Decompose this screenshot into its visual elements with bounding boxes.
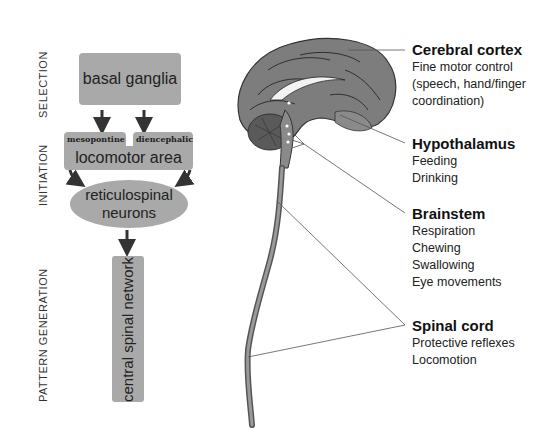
region-hypothalamus: Hypothalamus Feeding Drinking: [412, 135, 515, 187]
central-spinal-network-box: central spinal network: [112, 256, 144, 402]
leader-spinal-upper: [278, 202, 405, 325]
region-title: Hypothalamus: [412, 135, 515, 153]
arrow-locomotor-left: [70, 170, 78, 182]
region-brainstem: Brainstem Respiration Chewing Swallowing…: [412, 205, 502, 291]
mesopontine-label: mesopontine: [67, 134, 125, 144]
region-item: Protective reflexes: [412, 335, 515, 352]
region-item: Respiration: [412, 223, 502, 240]
locomotor-area-label: locomotor area: [75, 149, 182, 167]
region-item: Chewing: [412, 240, 502, 257]
region-item: Eye movements: [412, 274, 502, 291]
region-item: (speech, hand/finger: [412, 76, 526, 93]
arrow-locomotor-right: [182, 170, 190, 182]
reticulospinal-line1: reticulospinal: [85, 186, 173, 204]
leader-spinal-lower: [248, 325, 405, 357]
region-item: Swallowing: [412, 257, 502, 274]
leader-brainstem: [304, 144, 405, 213]
region-spinal-cord: Spinal cord Protective reflexes Locomoti…: [412, 317, 515, 369]
brain-illustration: [238, 38, 396, 168]
region-title: Spinal cord: [412, 317, 515, 335]
diencephalic-label: diencephalic: [136, 134, 193, 144]
basal-ganglia-box: basal ganglia: [79, 53, 181, 105]
region-item: coordination): [412, 93, 526, 110]
region-item: Drinking: [412, 170, 515, 187]
reticulospinal-neurons-ellipse: reticulospinal neurons: [70, 180, 188, 228]
region-item: Feeding: [412, 153, 515, 170]
central-spinal-network-label: central spinal network: [120, 256, 137, 401]
region-title: Brainstem: [412, 205, 502, 223]
spinal-cord: [247, 168, 282, 425]
locomotor-area-box: locomotor area: [64, 146, 193, 170]
basal-ganglia-label: basal ganglia: [83, 70, 177, 88]
region-item: Fine motor control: [412, 59, 526, 76]
reticulospinal-line2: neurons: [102, 204, 156, 222]
region-title: Cerebral cortex: [412, 41, 526, 59]
region-cerebral-cortex: Cerebral cortex Fine motor control (spee…: [412, 41, 526, 110]
region-item: Locomotion: [412, 352, 515, 369]
